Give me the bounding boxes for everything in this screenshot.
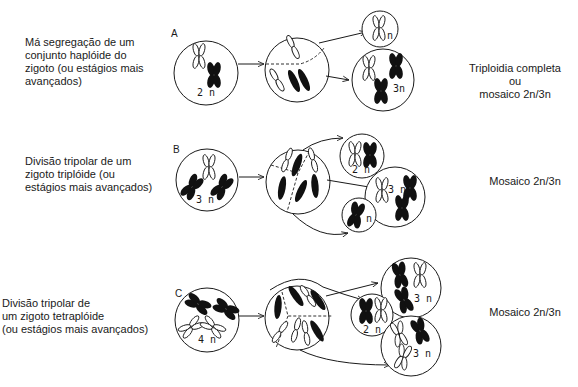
panel-c-daughter-3n-bottom: 3 n: [381, 315, 441, 376]
panel-a: A 2 n n: [171, 11, 414, 111]
panel-b-daughter-n: n: [342, 198, 376, 232]
arrow-icon: [319, 32, 366, 43]
arrow-icon: [326, 76, 349, 80]
panel-c: C 4 n: [175, 258, 441, 376]
panel-a-dividing-cell: [265, 35, 329, 102]
panel-b-daughter-ploidy: n: [366, 213, 372, 224]
panel-b-daughter-2n: 2 n: [340, 134, 384, 178]
panel-a-daughter-ploidy: n: [387, 30, 393, 41]
panel-c-daughter-ploidy: 2 n: [363, 324, 381, 335]
arrow-icon: [300, 350, 390, 365]
panel-a-daughter-ploidy: 3n: [393, 83, 405, 94]
panel-a-zygote-cell: 2 n: [174, 41, 238, 105]
panel-a-daughter-n: n: [362, 11, 398, 47]
panel-a-zygote-ploidy: 2 n: [197, 87, 215, 98]
panel-c-zygote-cell: 4 n: [175, 288, 242, 352]
panel-b-letter: B: [173, 144, 180, 155]
panel-b-zygote-ploidy: 3 n: [196, 194, 214, 205]
panel-c-daughter-ploidy: 3 n: [413, 348, 431, 359]
diagram-canvas: A 2 n n: [0, 0, 578, 387]
panel-c-letter: C: [175, 288, 182, 299]
panel-b-daughter-ploidy: 2 n: [352, 164, 370, 175]
panel-a-letter: A: [171, 28, 178, 39]
panel-c-dividing-cell: [265, 284, 332, 350]
panel-b: B 3 n 2 n: [173, 134, 425, 234]
arrow-icon: [293, 214, 348, 234]
panel-b-zygote-cell: 3 n: [176, 149, 238, 211]
panel-c-daughter-ploidy: 3 n: [414, 293, 432, 304]
panel-b-dividing-cell: [266, 147, 330, 214]
panel-a-daughter-3n: 3n: [352, 49, 414, 111]
panel-b-daughter-ploidy: 3 n: [388, 184, 406, 195]
panel-c-zygote-ploidy: 4 n: [198, 334, 216, 345]
